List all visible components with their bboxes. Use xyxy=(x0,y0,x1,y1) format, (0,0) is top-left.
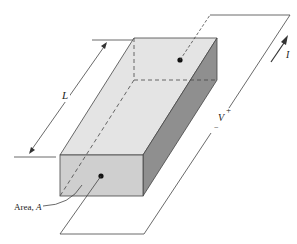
current-label: I xyxy=(285,49,290,60)
arrow-head-icon xyxy=(101,42,107,49)
voltage-label: V xyxy=(218,112,226,123)
length-label: L xyxy=(61,89,68,101)
resistor-diagram: L I + V − Area, A xyxy=(0,0,297,244)
voltage-minus: − xyxy=(214,123,219,132)
voltage-plus: + xyxy=(226,105,231,115)
arrow-head-icon xyxy=(281,35,288,45)
arrow-head-icon xyxy=(29,147,35,154)
area-label: Area, A xyxy=(14,202,42,212)
